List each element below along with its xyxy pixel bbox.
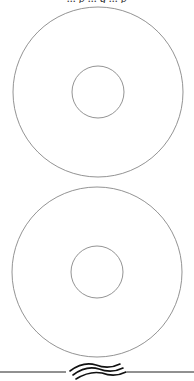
wavy-break-icon <box>70 364 126 379</box>
disc-top <box>13 7 183 177</box>
section-divider <box>0 364 194 379</box>
disc-diagram <box>0 0 194 381</box>
disc-bottom-inner-circle <box>71 246 123 298</box>
disc-bottom <box>12 187 182 357</box>
disc-top-inner-circle <box>72 66 124 118</box>
disc-top-outer-circle <box>13 7 183 177</box>
disc-bottom-outer-circle <box>12 187 182 357</box>
